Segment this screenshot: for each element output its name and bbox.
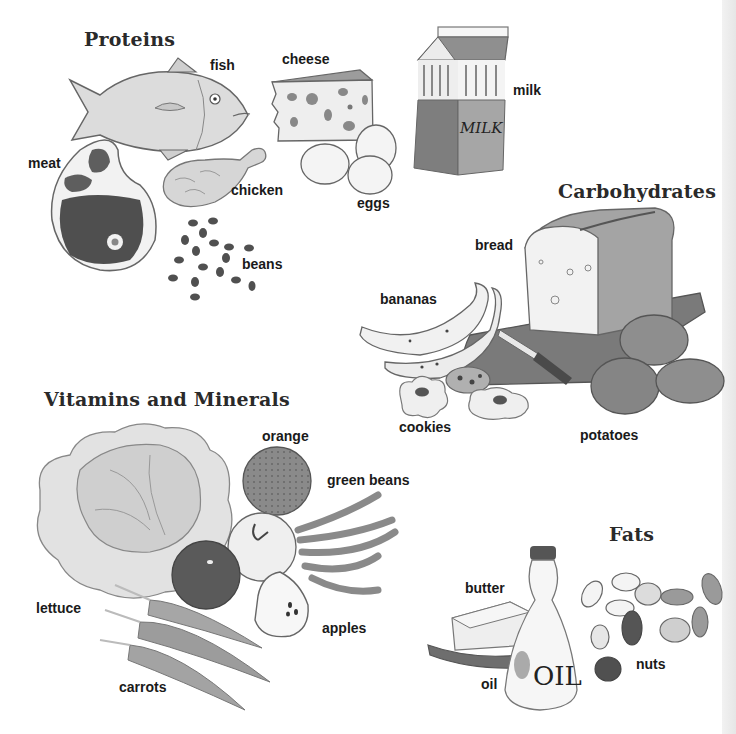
label-milk: milk bbox=[513, 82, 541, 98]
illustration-canvas: MILK bbox=[0, 0, 736, 734]
label-carrots: carrots bbox=[119, 679, 166, 695]
label-chicken: chicken bbox=[231, 182, 283, 198]
label-meat: meat bbox=[28, 155, 61, 171]
label-beans: beans bbox=[242, 256, 282, 272]
food-groups-figure: MILK bbox=[0, 0, 736, 734]
cheese-illustration bbox=[272, 70, 373, 141]
label-cookies: cookies bbox=[399, 419, 451, 435]
label-bananas: bananas bbox=[380, 291, 437, 307]
label-cheese: cheese bbox=[282, 51, 329, 67]
label-oil: oil bbox=[481, 676, 497, 692]
label-orange: orange bbox=[262, 428, 309, 444]
heading-proteins: Proteins bbox=[84, 28, 175, 50]
heading-fats: Fats bbox=[609, 523, 654, 545]
carton-text: MILK bbox=[459, 119, 503, 137]
label-nuts: nuts bbox=[636, 656, 666, 672]
milk-carton-illustration: MILK bbox=[414, 27, 508, 175]
label-apples: apples bbox=[322, 620, 366, 636]
meat-illustration bbox=[52, 140, 156, 271]
label-fish: fish bbox=[210, 57, 235, 73]
label-green-beans: green beans bbox=[327, 472, 409, 488]
green-beans-illustration bbox=[298, 495, 395, 591]
orange-illustration bbox=[243, 447, 311, 515]
label-eggs: eggs bbox=[357, 195, 390, 211]
label-lettuce: lettuce bbox=[36, 600, 81, 616]
heading-carbohydrates: Carbohydrates bbox=[558, 180, 716, 202]
heading-vitamins-minerals: Vitamins and Minerals bbox=[44, 388, 290, 410]
label-butter: butter bbox=[465, 580, 505, 596]
label-potatoes: potatoes bbox=[580, 427, 638, 443]
bottle-text: OIL bbox=[533, 661, 582, 691]
label-bread: bread bbox=[475, 237, 513, 253]
